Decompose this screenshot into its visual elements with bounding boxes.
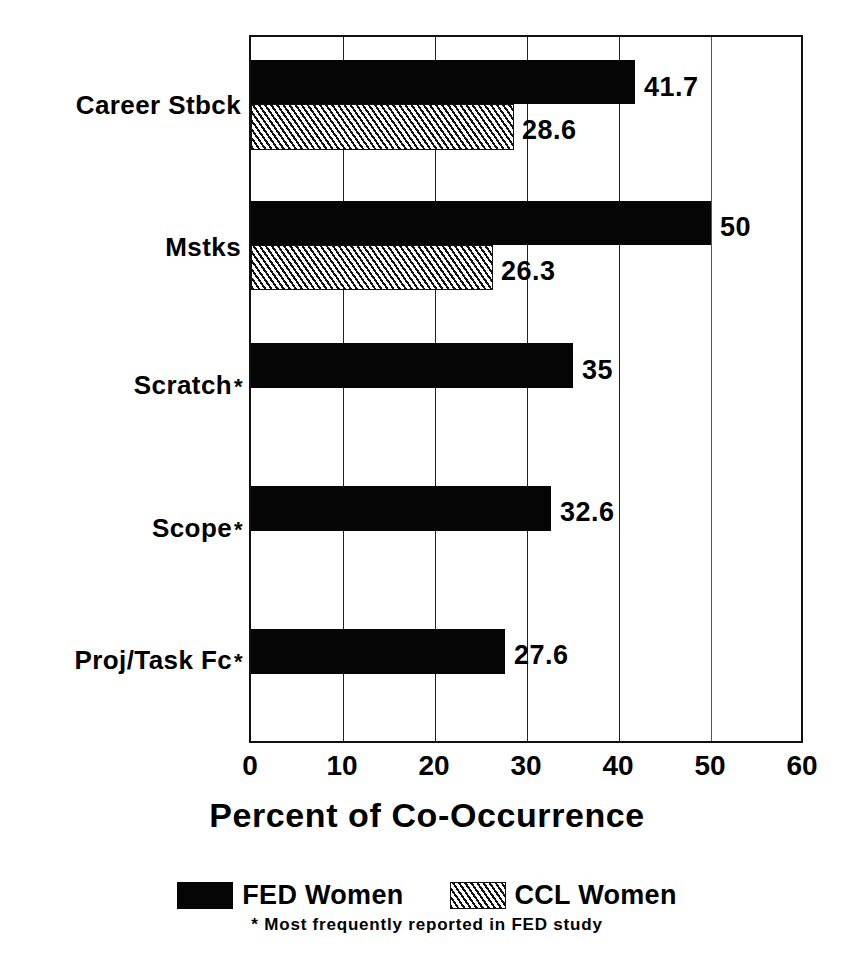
legend-label-ccl-women: CCL Women [515,880,677,911]
category-label-proj-task-fc-text: Proj/Task Fc [75,645,233,675]
category-star-proj-task-fc: * [232,649,243,674]
xtick-label-20: 20 [404,750,464,782]
category-label-scope-text: Scope [152,513,232,543]
xtick-label-30: 30 [496,750,556,782]
value-label-scope-fed: 32.6 [560,497,615,528]
legend-entry-fed-women: FED Women [177,880,403,911]
bar-scope-fed [251,486,551,531]
bar-mstks-fed [251,201,711,245]
category-star-scope: * [232,517,243,542]
value-label-scratch-fed: 35 [582,355,613,386]
xtick-label-60: 60 [772,750,832,782]
bar-mstks-ccl [251,245,493,290]
category-label-mstks-text: Mstks [165,232,241,262]
bar-proj-task-fc-fed [251,629,505,674]
category-label-career-stbck: Career Stbck [3,90,243,121]
category-label-career-stbck-text: Career Stbck [76,90,241,120]
xtick-label-40: 40 [588,750,648,782]
legend-entry-ccl-women: CCL Women [450,880,677,911]
legend-swatch-ccl-women [450,882,506,909]
value-label-mstks-ccl: 26.3 [501,256,556,287]
xtick-label-0: 0 [220,750,280,782]
category-label-scratch: Scratch* [3,370,243,401]
legend-swatch-fed-women [177,882,233,909]
xtick-label-50: 50 [680,750,740,782]
gridline-40 [619,37,620,741]
bar-career-stbck-fed [251,60,635,104]
chart-legend: FED Women CCL Women [0,880,854,911]
value-label-proj-task-fc-fed: 27.6 [514,640,569,671]
x-axis-title: Percent of Co-Occurrence [0,796,854,835]
category-label-scope: Scope* [3,513,243,544]
gridline-50 [711,37,712,741]
bar-career-stbck-ccl [251,104,514,150]
category-star-scratch: * [232,374,243,399]
category-label-scratch-text: Scratch [134,370,232,400]
bar-scratch-fed [251,343,573,388]
category-label-proj-task-fc: Proj/Task Fc* [3,645,243,676]
bar-chart: 41.7 28.6 50 26.3 35 32.6 27.6 Career St… [0,0,854,961]
xtick-label-10: 10 [312,750,372,782]
value-label-mstks-fed: 50 [720,212,751,243]
value-label-career-stbck-ccl: 28.6 [522,115,577,146]
category-star-career-stbck [241,94,243,119]
legend-label-fed-women: FED Women [242,880,403,911]
category-star-mstks [241,236,243,261]
value-label-career-stbck-fed: 41.7 [644,72,699,103]
category-label-mstks: Mstks [3,232,243,263]
legend-footnote: * Most frequently reported in FED study [0,915,854,935]
